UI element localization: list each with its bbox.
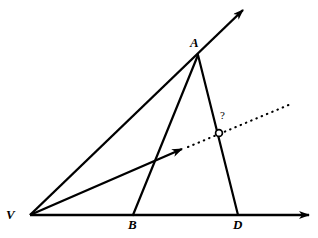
geometry-canvas — [0, 0, 318, 238]
segment-AB — [133, 55, 198, 215]
point-label-b: B — [128, 218, 137, 231]
ray-VA-extended — [30, 10, 243, 215]
point-label-d: D — [233, 218, 242, 231]
ray-bisector-solid — [30, 149, 182, 215]
unknown-point-marker — [216, 130, 223, 137]
unknown-point-label: ? — [220, 110, 225, 121]
point-label-v: V — [6, 208, 15, 221]
geometry-diagram: V A B D ? — [0, 0, 318, 238]
point-label-a: A — [190, 36, 199, 49]
ray-bisector-dotted — [188, 104, 291, 147]
